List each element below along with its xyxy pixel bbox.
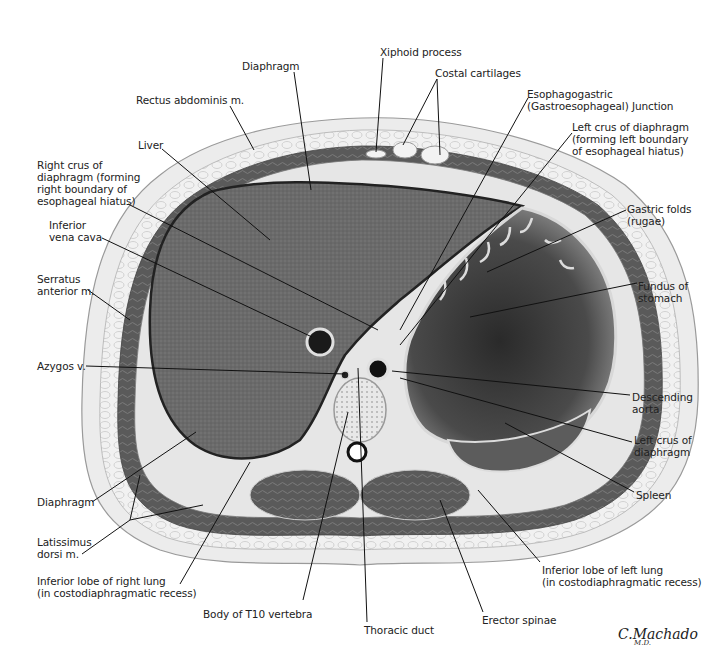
label-latissimus-dorsi: Latissimus dorsi m. bbox=[37, 536, 92, 560]
label-thoracic-duct: Thoracic duct bbox=[364, 624, 434, 636]
label-serratus-anterior: Serratus anterior m. bbox=[37, 273, 94, 297]
label-inferior-lobe-right-lung: Inferior lobe of right lung (in costodia… bbox=[37, 575, 197, 599]
label-gastric-folds: Gastric folds (rugae) bbox=[627, 203, 691, 227]
label-diaphragm-top: Diaphragm bbox=[242, 60, 300, 72]
label-body-of-t10-vertebra: Body of T10 vertebra bbox=[203, 608, 312, 620]
label-costal-cartilages: Costal cartilages bbox=[435, 67, 521, 79]
label-liver: Liver bbox=[138, 139, 163, 151]
anatomical-cross-section-figure: Xiphoid processDiaphragmCostal cartilage… bbox=[0, 0, 724, 668]
label-left-crus-upper: Left crus of diaphragm (forming left bou… bbox=[572, 121, 689, 157]
artist-signature: C.Machado M.D. bbox=[618, 626, 698, 647]
label-diaphragm-bottom: Diaphragm bbox=[37, 496, 95, 508]
signature-text: C.Machado bbox=[618, 626, 698, 642]
label-esophagogastric-junction: Esophagogastric (Gastroesophageal) Junct… bbox=[527, 88, 673, 112]
inferior-vena-cava-shape bbox=[307, 329, 333, 355]
label-right-crus: Right crus of diaphragm (forming right b… bbox=[37, 159, 140, 207]
label-erector-spinae: Erector spinae bbox=[482, 614, 556, 626]
label-descending-aorta: Descending aorta bbox=[632, 391, 693, 415]
label-rectus-abdominis: Rectus abdominis m. bbox=[136, 94, 244, 106]
label-spleen: Spleen bbox=[636, 489, 671, 501]
aorta-shape bbox=[368, 359, 388, 379]
label-inferior-vena-cava: Inferior vena cava bbox=[49, 219, 102, 243]
label-fundus-of-stomach: Fundus of stomach bbox=[638, 280, 688, 304]
label-left-crus-lower: Left crus of diaphragm bbox=[634, 434, 692, 458]
label-azygos-vein: Azygos v. bbox=[37, 360, 86, 372]
label-xiphoid-process: Xiphoid process bbox=[380, 46, 462, 58]
label-inferior-lobe-left-lung: Inferior lobe of left lung (in costodiap… bbox=[542, 564, 702, 588]
